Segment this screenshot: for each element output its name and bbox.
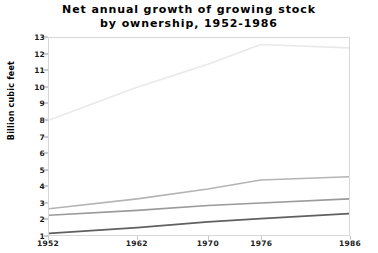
chart-title: Net annual growth of growing stock by ow…	[0, 3, 378, 31]
plot-area	[48, 37, 350, 236]
y-axis-title: Billion cubic feet	[7, 36, 16, 166]
x-axis-tick-mark	[208, 236, 209, 240]
y-axis-tick-label: 8	[19, 115, 45, 124]
y-axis-tick-label: 9	[19, 99, 45, 108]
y-axis-tick-label: 10	[19, 82, 45, 91]
x-axis-tick-label: 1976	[250, 239, 272, 248]
y-axis-tick-label: 2	[19, 215, 45, 224]
x-axis-tick-mark	[137, 236, 138, 240]
data-series-line	[49, 177, 349, 209]
y-axis-tick-label: 4	[19, 182, 45, 191]
x-axis-tick-mark	[350, 236, 351, 240]
x-axis-tick-label: 1962	[126, 239, 148, 248]
x-axis-tick-mark	[261, 236, 262, 240]
y-axis-tick-label: 11	[19, 66, 45, 75]
y-axis-tick-label: 6	[19, 149, 45, 158]
x-axis-tick-label: 1952	[37, 239, 59, 248]
y-axis-tick-label: 13	[19, 33, 45, 42]
data-series-line	[49, 214, 349, 234]
y-axis-tick-label: 3	[19, 198, 45, 207]
chart-title-line-1: Net annual growth of growing stock	[0, 3, 378, 17]
y-axis-tick-label: 5	[19, 165, 45, 174]
line-chart-svg	[49, 38, 349, 235]
data-series-line	[49, 199, 349, 215]
x-axis-tick-label: 1970	[197, 239, 219, 248]
y-axis-tick-label: 12	[19, 49, 45, 58]
y-axis-tick-label: 7	[19, 132, 45, 141]
chart-container: Net annual growth of growing stock by ow…	[0, 0, 378, 253]
x-axis-tick-label: 1986	[339, 239, 361, 248]
data-series-line	[49, 45, 349, 121]
x-axis-tick-mark	[48, 236, 49, 240]
chart-title-line-2: by ownership, 1952-1986	[0, 17, 378, 31]
